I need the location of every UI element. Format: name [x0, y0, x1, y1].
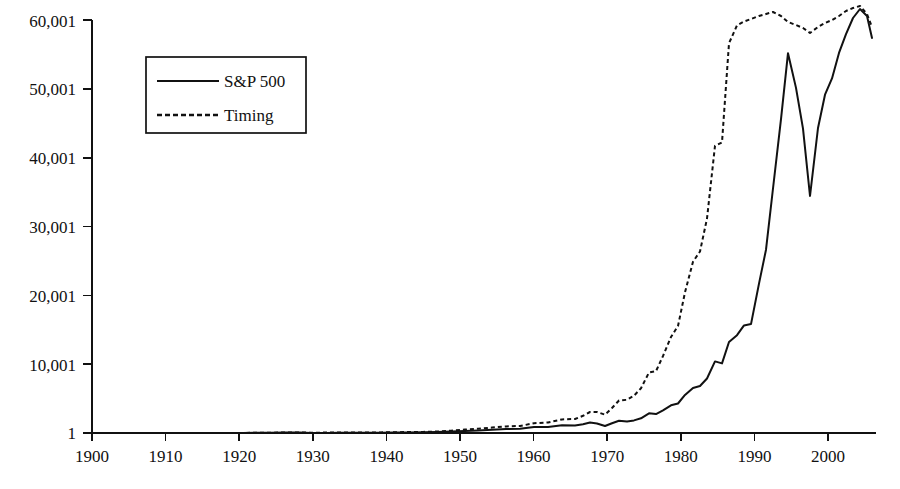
x-tick-label-8: 1980 [664, 447, 698, 466]
y-tick-label-2: 20,001 [29, 287, 76, 306]
x-tick-label-0: 1900 [75, 447, 109, 466]
legend-label-timing: Timing [224, 106, 274, 125]
x-tick-label-10: 2000 [811, 447, 845, 466]
y-axis-ticks [83, 89, 97, 433]
x-tick-label-4: 1940 [369, 447, 403, 466]
y-tick-label-4: 40,001 [29, 149, 76, 168]
y-tick-label-6: 60,001 [29, 12, 76, 31]
y-axis-tick-labels: 1 10,001 20,001 30,001 40,001 50,001 60,… [29, 12, 76, 444]
x-tick-label-7: 1970 [590, 447, 624, 466]
x-tick-label-6: 1960 [517, 447, 551, 466]
y-tick-label-1: 10,001 [29, 356, 76, 375]
x-tick-label-5: 1950 [443, 447, 477, 466]
x-axis-tick-labels: 1900 1910 1920 1930 1940 1950 1960 1970 … [75, 447, 845, 466]
line-chart: 1 10,001 20,001 30,001 40,001 50,001 60,… [0, 0, 900, 489]
y-tick-label-3: 30,001 [29, 218, 76, 237]
legend: S&P 500 Timing [146, 57, 306, 133]
y-tick-label-0: 1 [68, 424, 77, 443]
y-tick-label-5: 50,001 [29, 80, 76, 99]
x-tick-label-1: 1910 [149, 447, 183, 466]
x-tick-label-2: 1920 [222, 447, 256, 466]
x-tick-label-9: 1990 [737, 447, 771, 466]
legend-label-sp500: S&P 500 [224, 72, 285, 91]
x-tick-label-3: 1930 [296, 447, 330, 466]
chart-container: 1 10,001 20,001 30,001 40,001 50,001 60,… [0, 0, 900, 489]
